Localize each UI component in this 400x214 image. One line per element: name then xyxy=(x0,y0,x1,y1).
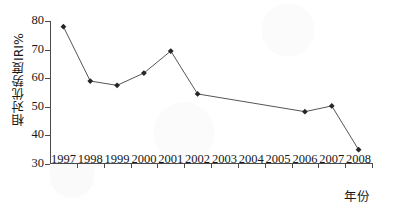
x-axis-title: 年份 xyxy=(344,186,370,205)
y-axis-tick-label: 70 xyxy=(17,43,44,55)
data-point-marker xyxy=(195,91,201,97)
y-axis-tick-label: 30 xyxy=(17,157,44,169)
data-point-marker xyxy=(87,78,93,84)
plot-area: 304050607080 xyxy=(50,21,372,163)
y-axis-tick-label: 50 xyxy=(17,100,44,112)
y-axis-tick-label: 60 xyxy=(17,71,44,83)
data-point-marker xyxy=(329,103,335,109)
data-point-marker xyxy=(114,82,120,88)
y-axis-tick-label: 40 xyxy=(17,128,44,140)
data-point-marker xyxy=(302,109,308,115)
x-axis-tick-label: 2008 xyxy=(339,152,379,167)
data-point-marker xyxy=(61,24,67,30)
data-series-line xyxy=(50,21,372,164)
chart-container: 相对优势度IRI% 304050607080 19971998199920002… xyxy=(0,0,400,214)
y-axis-tick-label: 80 xyxy=(17,14,44,26)
